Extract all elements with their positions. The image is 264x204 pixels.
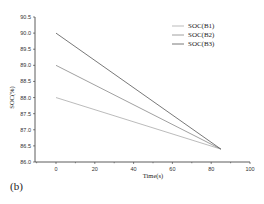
x-tick-label: 40 bbox=[131, 166, 137, 172]
x-tick-label: 80 bbox=[208, 166, 214, 172]
chart-root: 86.086.587.087.588.088.589.089.590.090.5… bbox=[0, 0, 264, 204]
legend-label: SOC(B1) bbox=[188, 22, 215, 30]
y-tick-label: 89.5 bbox=[20, 46, 31, 52]
series-line-socb2 bbox=[56, 65, 221, 149]
y-tick-label: 88.0 bbox=[20, 95, 31, 101]
panel-label: (b) bbox=[10, 180, 23, 192]
x-axis-label: Time(s) bbox=[143, 172, 163, 180]
y-axis-label: SOC(%) bbox=[8, 86, 16, 108]
y-tick-label: 90.5 bbox=[20, 14, 31, 20]
y-tick-label: 86.0 bbox=[20, 159, 31, 165]
y-tick-label: 88.5 bbox=[20, 78, 31, 84]
series-line-socb1 bbox=[56, 98, 221, 150]
y-tick-label: 90.0 bbox=[20, 30, 31, 36]
x-tick-label: 100 bbox=[245, 166, 254, 172]
soc-line-chart: 86.086.587.087.588.088.589.089.590.090.5… bbox=[0, 0, 264, 204]
y-tick-label: 87.5 bbox=[20, 111, 31, 117]
y-tick-label: 89.0 bbox=[20, 62, 31, 68]
y-tick-label: 87.0 bbox=[20, 127, 31, 133]
legend-label: SOC(B2) bbox=[188, 31, 215, 39]
x-tick-label: 60 bbox=[169, 166, 175, 172]
x-tick-label: 20 bbox=[92, 166, 98, 172]
y-tick-label: 86.5 bbox=[20, 143, 31, 149]
x-tick-label: 0 bbox=[54, 166, 57, 172]
series-line-socb3 bbox=[56, 33, 221, 149]
legend-label: SOC(B3) bbox=[188, 40, 215, 48]
